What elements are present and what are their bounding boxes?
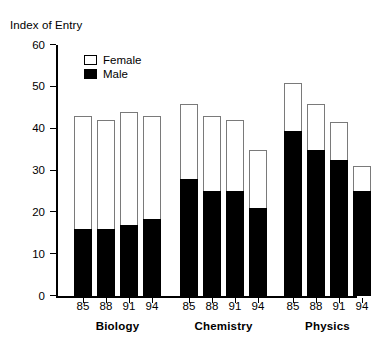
stacked-bar-chart: Index of Entry 0102030405060 85889194858… — [0, 0, 371, 347]
chart-title: Index of Entry — [10, 19, 82, 31]
y-tick: 10 — [50, 253, 56, 254]
group-label-chemistry: Chemistry — [164, 320, 284, 332]
bar-segment-male[interactable] — [249, 208, 267, 296]
bar-segment-male[interactable] — [203, 191, 221, 296]
bar-biology-91[interactable] — [120, 112, 138, 296]
y-tick-label: 60 — [32, 39, 45, 51]
bar-biology-85[interactable] — [74, 116, 92, 296]
y-tick: 50 — [50, 86, 56, 87]
bar-segment-male[interactable] — [74, 229, 92, 296]
legend-label: Male — [103, 68, 128, 80]
x-label-chemistry-94: 94 — [244, 300, 272, 312]
legend-label: Female — [103, 54, 141, 66]
bar-segment-male[interactable] — [284, 131, 302, 296]
y-tick: 0 — [50, 295, 56, 296]
legend-item-male[interactable]: Male — [84, 67, 141, 81]
y-tick-label: 30 — [32, 164, 45, 176]
bar-segment-male[interactable] — [307, 150, 325, 296]
legend-swatch-icon — [84, 69, 97, 79]
y-tick: 60 — [50, 44, 56, 45]
group-label-biology: Biology — [58, 320, 178, 332]
plot-area: 0102030405060 — [56, 45, 356, 296]
y-tick-label: 20 — [32, 206, 45, 218]
bar-segment-male[interactable] — [330, 160, 348, 296]
bar-physics-88[interactable] — [307, 104, 325, 296]
x-axis-line — [56, 296, 357, 298]
bar-physics-85[interactable] — [284, 83, 302, 296]
bar-physics-91[interactable] — [330, 122, 348, 296]
y-tick-label: 40 — [32, 122, 45, 134]
x-label-physics-94: 94 — [348, 300, 371, 312]
y-tick-label: 0 — [39, 290, 45, 302]
x-label-biology-94: 94 — [138, 300, 166, 312]
bar-physics-94[interactable] — [353, 166, 371, 296]
y-tick-label: 10 — [32, 248, 45, 260]
bar-biology-94[interactable] — [143, 116, 161, 296]
bar-segment-male[interactable] — [353, 191, 371, 296]
bar-chemistry-88[interactable] — [203, 116, 221, 296]
y-tick: 30 — [50, 170, 56, 171]
bar-segment-male[interactable] — [226, 191, 244, 296]
bar-segment-male[interactable] — [97, 229, 115, 296]
bar-segment-male[interactable] — [143, 219, 161, 296]
y-tick: 20 — [50, 211, 56, 212]
y-tick: 40 — [50, 128, 56, 129]
bar-segment-male[interactable] — [120, 225, 138, 296]
bar-chemistry-85[interactable] — [180, 104, 198, 296]
legend: FemaleMale — [84, 53, 141, 81]
y-axis-line — [56, 45, 58, 296]
bar-chemistry-91[interactable] — [226, 120, 244, 296]
group-label-physics: Physics — [268, 320, 371, 332]
legend-item-female[interactable]: Female — [84, 53, 141, 67]
bar-chemistry-94[interactable] — [249, 150, 267, 296]
legend-swatch-icon — [84, 55, 97, 65]
bar-segment-male[interactable] — [180, 179, 198, 296]
bar-biology-88[interactable] — [97, 120, 115, 296]
y-tick-label: 50 — [32, 80, 45, 92]
